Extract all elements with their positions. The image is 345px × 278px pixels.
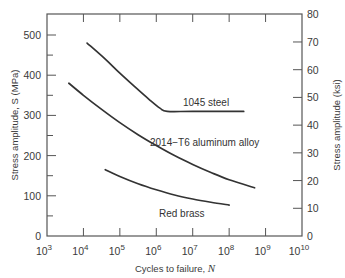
y-tick-label-right: 60 <box>307 64 319 76</box>
y-tick-label-left: 500 <box>23 29 41 41</box>
y-tick-label-left: 300 <box>23 109 41 121</box>
left-y-axis-ticks: 0100200300400500 <box>23 29 56 242</box>
x-axis-title: Cycles to failure, N <box>135 262 216 274</box>
y-tick-label-left: 400 <box>23 69 41 81</box>
x-tick-label: 106 <box>145 243 162 257</box>
x-tick-label: 1010 <box>289 243 310 257</box>
x-axis-ticks: 1031041051061071081091010 <box>36 14 310 257</box>
y-tick-label-right: 10 <box>307 202 319 214</box>
x-tick-label: 103 <box>36 243 53 257</box>
x-tick-label: 109 <box>255 243 272 257</box>
y-tick-label-right: 20 <box>307 175 319 187</box>
y-tick-label-left: 100 <box>23 190 41 202</box>
y-tick-label-right: 50 <box>307 91 319 103</box>
right-y-axis-title: Stress amplitude (ksi) <box>331 79 342 170</box>
curve-red-brass <box>105 170 229 205</box>
y-tick-label-right: 30 <box>307 147 319 159</box>
y-tick-label-right: 0 <box>307 230 313 242</box>
x-tick-label: 105 <box>109 243 126 257</box>
y-tick-label-right: 40 <box>307 119 319 131</box>
x-tick-label: 108 <box>218 243 235 257</box>
y-tick-label-left: 200 <box>23 150 41 162</box>
y-tick-label-right: 80 <box>307 8 319 20</box>
plot-border <box>47 14 302 236</box>
y-tick-label-left: 0 <box>35 230 41 242</box>
curves <box>69 43 255 205</box>
x-tick-label: 104 <box>72 243 89 257</box>
sn-fatigue-chart: 1031041051061071081091010 01002003004005… <box>0 0 345 278</box>
label-1045-steel: 1045 steel <box>183 97 229 108</box>
left-y-axis-title: Stress amplitude, S (MPa) <box>9 70 20 181</box>
right-y-axis-ticks: 01020304050607080 <box>293 8 319 242</box>
y-tick-label-right: 70 <box>307 36 319 48</box>
plot-frame <box>47 14 302 236</box>
label-aluminum-alloy: 2014−T6 aluminum alloy <box>150 137 259 148</box>
x-tick-label: 107 <box>182 243 199 257</box>
label-red-brass: Red brass <box>159 208 205 219</box>
